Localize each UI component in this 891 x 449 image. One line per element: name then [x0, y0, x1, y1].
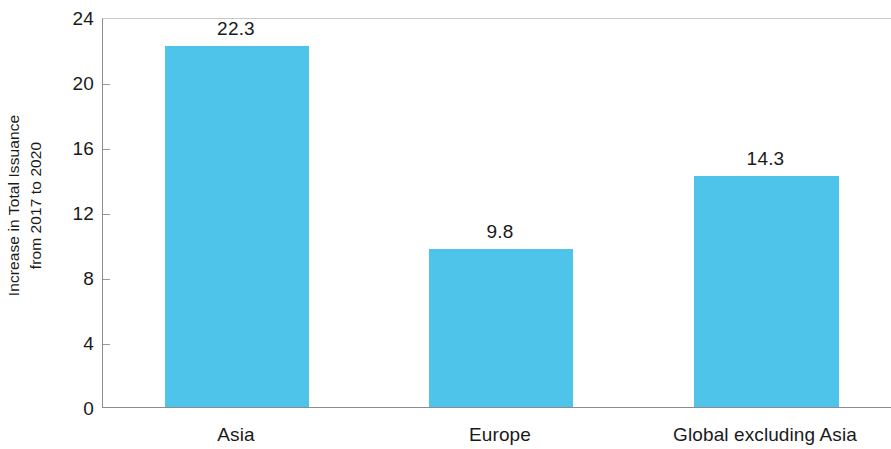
y-axis-title-line-1: Increase in Total Issuance — [6, 114, 23, 296]
y-axis-tick-labels: 24 20 16 12 8 4 0 — [48, 0, 94, 449]
bar-chart-figure: Increase in Total Issuance from 2017 to … — [0, 0, 891, 449]
y-tick-label-4: 4 — [52, 334, 94, 353]
y-axis-title-line-2: from 2017 to 2020 — [26, 114, 48, 296]
x-category-label-asia: Asia — [154, 425, 318, 444]
y-tick-mark-12 — [103, 214, 110, 215]
x-category-label-europe: Europe — [418, 425, 582, 444]
y-tick-mark-20 — [103, 84, 110, 85]
y-tick-mark-8 — [103, 279, 110, 280]
plot-area — [102, 18, 891, 408]
y-tick-mark-4 — [103, 344, 110, 345]
bar-asia[interactable] — [165, 46, 309, 407]
y-tick-label-12: 12 — [52, 204, 94, 223]
bar-value-label-global-excluding-asia: 14.3 — [693, 149, 838, 168]
y-axis-title: Increase in Total Issuance from 2017 to … — [0, 0, 52, 410]
y-tick-label-16: 16 — [52, 139, 94, 158]
y-tick-label-20: 20 — [52, 74, 94, 93]
y-tick-label-8: 8 — [52, 269, 94, 288]
bar-global-excluding-asia[interactable] — [694, 176, 839, 407]
bar-value-label-europe: 9.8 — [428, 222, 572, 241]
bar-value-label-asia: 22.3 — [164, 19, 308, 38]
y-tick-mark-16 — [103, 149, 110, 150]
bar-europe[interactable] — [429, 249, 573, 407]
x-category-label-global-excluding-asia: Global excluding Asia — [665, 425, 865, 444]
y-tick-label-24: 24 — [52, 9, 94, 28]
y-tick-label-0: 0 — [52, 399, 94, 418]
